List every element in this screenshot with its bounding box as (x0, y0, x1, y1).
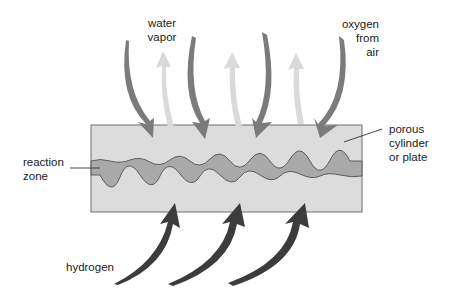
hydrogen-arrow-icon (168, 203, 245, 286)
oxygen-label-line2: from (334, 31, 379, 45)
porous-label: porous cylinder or plate (389, 122, 449, 164)
water-vapor-arrow-icon (224, 52, 242, 127)
water-vapor-label: water vapor (142, 16, 182, 44)
fuel-cell-diagram (0, 0, 451, 299)
water-vapor-arrows (156, 51, 304, 127)
hydrogen-label: hydrogen (66, 260, 126, 274)
porous-label-line1: porous (389, 122, 449, 136)
water-vapor-arrow-icon (156, 51, 174, 127)
porous-label-line3: or plate (389, 150, 449, 164)
oxygen-arrow-icon (124, 40, 154, 138)
reaction-zone-label-line1: reaction (23, 155, 83, 169)
oxygen-label-line3: air (334, 45, 379, 59)
oxygen-label: oxygen from air (334, 17, 379, 59)
reaction-zone-label-line2: zone (23, 169, 83, 183)
oxygen-arrow-icon (188, 36, 211, 139)
water-vapor-label-line1: water (142, 16, 182, 30)
oxygen-arrow-icon (252, 32, 272, 138)
hydrogen-arrows (114, 203, 309, 286)
porous-label-line2: cylinder (389, 136, 449, 150)
oxygen-label-line1: oxygen (334, 17, 379, 31)
water-vapor-label-line2: vapor (142, 30, 182, 44)
water-vapor-arrow-icon (288, 53, 304, 124)
reaction-zone-label: reaction zone (23, 155, 83, 183)
